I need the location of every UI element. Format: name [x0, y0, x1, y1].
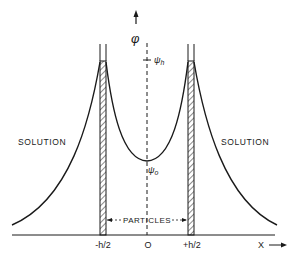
psi-h-label: ψh [154, 55, 165, 66]
x-axis-arrow-icon [269, 243, 287, 248]
phi-axis-label: φ [131, 31, 140, 46]
particles-label: PARTICLES [123, 216, 171, 225]
solution-label-left: SOLUTION [18, 137, 66, 147]
x-axis-label: X [258, 240, 264, 250]
interior-potential-curve [106, 62, 188, 161]
psi-0-label: ψo [148, 165, 159, 176]
solution-label-right: SOLUTION [221, 137, 269, 147]
potential-diagram: φ ψh ψo SOLUTION SOLUTION PARTICLES -h/2… [0, 0, 293, 257]
x-tick-pos-h2: +h/2 [183, 240, 201, 250]
phi-axis-arrow-icon [134, 10, 139, 24]
x-tick-neg-h2: -h/2 [95, 240, 111, 250]
x-tick-zero: O [144, 240, 151, 250]
left-particle-plate [100, 61, 106, 235]
right-particle-plate [188, 61, 194, 235]
